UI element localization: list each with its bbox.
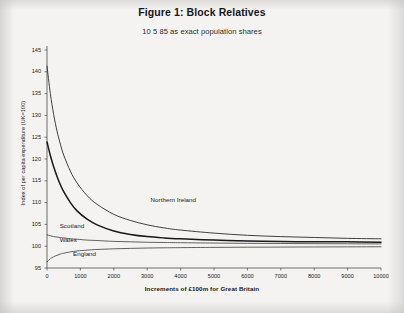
plot-area — [0, 0, 404, 313]
axis-lines — [45, 46, 382, 271]
figure-1-chart: Figure 1: Block Relatives 10 5 85 as exa… — [0, 0, 404, 313]
curve-england — [47, 247, 381, 262]
curve-northern-ireland — [47, 66, 381, 239]
curve-scotland — [47, 142, 381, 242]
series-curves — [47, 66, 381, 262]
